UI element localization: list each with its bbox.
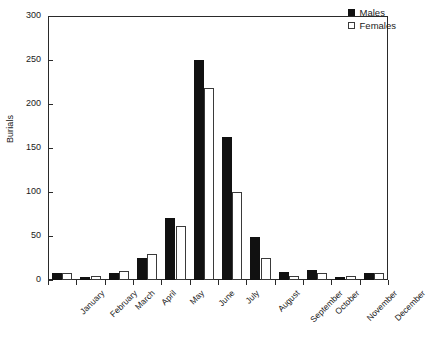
x-tick-label-may: May	[187, 288, 205, 306]
x-tick-mark	[190, 280, 191, 285]
x-tick-label-august: August	[275, 288, 301, 314]
x-tick-mark	[218, 280, 219, 285]
y-tick-label: 150	[0, 142, 41, 152]
bar-may-females	[176, 226, 186, 280]
legend-label-females: Females	[360, 19, 396, 32]
bar-september-males	[279, 272, 289, 280]
x-tick-label-april: April	[159, 288, 178, 307]
x-tick-label-january: January	[78, 288, 106, 316]
bar-may-males	[165, 218, 175, 280]
bar-june-males	[194, 60, 204, 280]
x-tick-mark	[105, 280, 106, 285]
bar-april-males	[137, 258, 147, 280]
bar-november-females	[346, 276, 356, 280]
bar-january-males	[52, 273, 62, 280]
bar-june-females	[204, 88, 214, 280]
x-tick-mark	[161, 280, 162, 285]
bars-layer	[48, 16, 388, 280]
y-tick-label: 300	[0, 10, 41, 20]
bar-august-females	[261, 258, 271, 280]
x-tick-mark	[48, 280, 49, 285]
y-tick-label: 250	[0, 54, 41, 64]
bar-march-females	[119, 271, 129, 280]
y-tick-label: 50	[0, 230, 41, 240]
bar-december-males	[364, 273, 374, 280]
bar-november-males	[335, 277, 345, 280]
x-tick-mark	[246, 280, 247, 285]
bar-april-females	[147, 254, 157, 280]
legend-label-males: Males	[360, 6, 385, 19]
bar-february-males	[80, 277, 90, 280]
legend-item-females: Females	[348, 19, 396, 32]
bar-july-males	[222, 137, 232, 280]
x-tick-mark	[331, 280, 332, 285]
x-tick-mark	[388, 280, 389, 285]
x-tick-mark	[133, 280, 134, 285]
x-tick-label-july: July	[244, 288, 262, 306]
y-tick-label: 0	[0, 274, 41, 284]
bar-march-males	[109, 273, 119, 280]
y-tick-label: 100	[0, 186, 41, 196]
x-tick-mark	[275, 280, 276, 285]
chart-legend: Males Females	[348, 6, 396, 32]
bar-august-males	[250, 237, 260, 280]
bar-july-females	[232, 192, 242, 280]
bar-december-females	[374, 273, 384, 280]
x-tick-label-june: June	[216, 288, 236, 308]
y-tick-label: 200	[0, 98, 41, 108]
bar-october-females	[317, 273, 327, 280]
x-tick-mark	[76, 280, 77, 285]
open-square-icon	[348, 22, 355, 29]
filled-square-icon	[348, 9, 355, 16]
bar-september-females	[289, 276, 299, 280]
bar-october-males	[307, 270, 317, 280]
legend-item-males: Males	[348, 6, 396, 19]
bar-january-females	[62, 273, 72, 280]
x-tick-mark	[303, 280, 304, 285]
bar-february-females	[91, 276, 101, 280]
x-tick-mark	[360, 280, 361, 285]
